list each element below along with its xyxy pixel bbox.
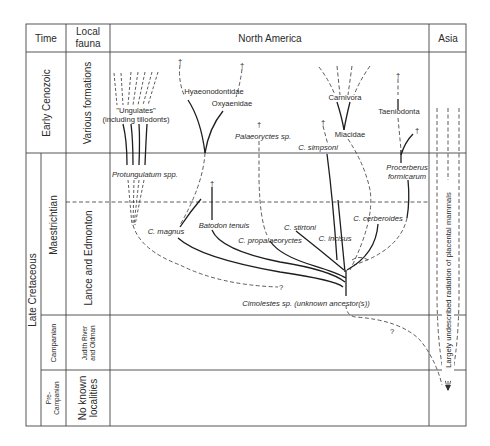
taxon-oxyaenidae: Oxyaenidae (212, 99, 253, 108)
extinction-dagger-taeniodonta: † (396, 71, 400, 80)
label-pre-campanian-2: Campanian (53, 381, 61, 415)
uncertain-mark-asia: ? (390, 327, 394, 336)
label-various-formations: Various formations (82, 62, 93, 145)
extinction-dagger-batodon: † (210, 179, 214, 188)
extinction-dagger-taeniodonta-2: † (415, 126, 419, 135)
taxon-c-magnus: C. magnus (148, 227, 185, 236)
header-local-fauna-1: Local (76, 26, 100, 37)
uncertain-mark-protungulatum: ? (279, 283, 283, 292)
taxon-ungulates-1: "Ungulates" (116, 106, 156, 115)
taxon-protungulatum: Protungulatum spp. (112, 170, 178, 179)
simpsoni-lineage (327, 154, 337, 260)
taxon-c-stirtoni: C. stirtoni (284, 223, 316, 232)
taxon-cimolestes: Cimolestes sp. (unknown ancestor(s)) (242, 299, 370, 308)
taxon-palaeoryctes: Palaeoryctes sp. (235, 132, 291, 141)
taxon-procerberus-2: formicarum (388, 172, 426, 181)
taxon-c-cerberoides: C. cerberoides (353, 214, 403, 223)
header-asia: Asia (438, 33, 458, 44)
extinction-dagger-simpsoni: † (321, 118, 325, 127)
label-maestrichtian: Maestrichtian (48, 195, 59, 254)
taxon-asia-note: Largely undescribed radiation of placent… (444, 192, 453, 368)
taxon-c-simpsoni: C. simpsoni (298, 143, 338, 152)
label-late-cretaceous: Late Cretaceous (27, 253, 38, 326)
taxon-c-incisus: C. incisus (319, 234, 352, 243)
taxon-taeniodonta: Taeniodonta (378, 107, 420, 116)
taxon-hyaenodontidae: Hyaeonodontidae (184, 87, 244, 96)
label-campanian: Campanian (49, 324, 58, 363)
extinction-dagger-oxyaenidae: † (240, 61, 244, 70)
label-early-cenozoic: Early Cenozoic (41, 69, 52, 136)
taxon-batodon: Batodon tenuis (199, 221, 250, 230)
creodont-lineages: † † (178, 57, 244, 225)
palaeoryctes-lineage (259, 141, 267, 235)
label-no-known-1: No known (77, 376, 88, 420)
asia-arrow-tip-icon (445, 385, 451, 391)
label-judith-river-2: and Oldman (89, 325, 96, 361)
extinction-dagger-palaeoryctes: † (257, 120, 261, 129)
taxon-carnivora: Carnivora (329, 93, 363, 102)
taxon-procerberus-1: Procerberus (386, 163, 428, 172)
label-lance-edmonton: Lance and Edmonton (83, 210, 94, 305)
taxon-miacidae: Miacidae (335, 130, 365, 139)
label-pre-campanian-1: Pre- (45, 392, 52, 404)
cimolestes-lineages: † (133, 179, 442, 385)
label-judith-river-1: Judith River (81, 325, 88, 360)
phylogeny-diagram: Time Local fauna North America Asia Earl… (0, 0, 490, 446)
header-time: Time (35, 33, 57, 44)
taxon-ungulates-2: (including tillodonts) (102, 115, 170, 124)
taxon-c-propalaeoryctes: C. propalaeoryctes (238, 236, 302, 245)
header-local-fauna-2: fauna (75, 38, 100, 49)
label-no-known-2: localities (88, 379, 99, 417)
header-north-america: North America (238, 33, 302, 44)
extinction-dagger-hyaenodontidae: † (178, 57, 182, 66)
